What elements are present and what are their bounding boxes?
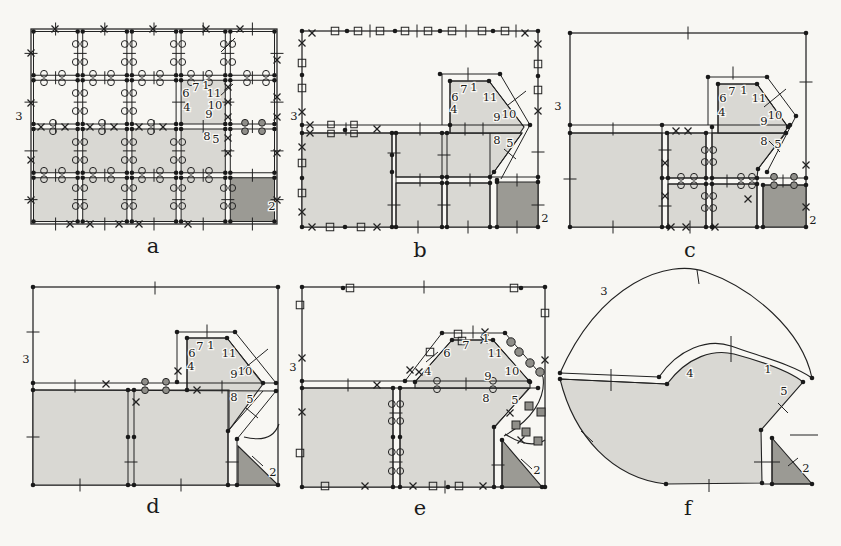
panel-caption-d: d [146,494,159,518]
cell-label: 6 [182,86,189,100]
panel-b: 3671114910852 [290,25,548,234]
cell-label: 9 [484,369,491,383]
cell-label: 9 [205,107,212,121]
cell-label: 5 [246,392,253,406]
cell-label: 2 [268,199,275,213]
cell-label: 2 [533,463,540,477]
figure-svg: 3671114109852367111491085236711149108523… [0,0,841,546]
cell-label: 4 [718,105,725,119]
cell-label: 10 [768,108,783,122]
cell-label: 8 [230,390,237,404]
cell-label: 10 [502,107,517,121]
cell-label: 8 [203,129,210,143]
cell-label: 3 [289,360,296,374]
cell-label: 6 [719,91,726,105]
cell-label: 11 [488,346,503,360]
cell-label: 11 [483,90,498,104]
cell-label: 6 [188,346,195,360]
panel-caption-c: c [684,238,696,262]
cell-label: 2 [541,211,548,225]
cell-label: 5 [212,132,219,146]
cell-label: 7 [196,339,203,353]
cell-label: 2 [802,461,809,475]
cell-label: 11 [752,91,767,105]
cell-label: 7 [728,84,735,98]
cell-label: 7 [192,80,199,94]
cell-label: 10 [238,364,253,378]
cell-label: 4 [424,364,431,378]
cell-label: 9 [760,114,767,128]
panel-caption-a: a [147,234,160,258]
cell-label: 8 [493,133,500,147]
cell-label: 2 [269,465,276,479]
cell-label: 9 [230,367,237,381]
panel-f: 34152 [558,268,818,492]
cell-label: 1 [482,331,489,345]
cell-label: 9 [493,110,500,124]
cell-label: 8 [760,134,767,148]
panel-d: 3671114910852 [22,282,280,492]
cell-label: 3 [290,109,297,123]
panel-a: 3671114109852 [15,23,283,231]
cell-label: 4 [686,366,693,380]
cell-label: 3 [554,99,561,113]
figure: 3671114109852367111491085236711149108523… [0,0,841,546]
cell-label: 8 [482,391,489,405]
panel-e: 3671114910852 [289,281,548,494]
cell-label: 3 [22,352,29,366]
cell-label: 6 [443,346,450,360]
panel-caption-b: b [413,238,426,262]
cell-label: 5 [774,137,781,151]
cell-label: 5 [511,393,518,407]
cell-label: 3 [600,284,607,298]
cell-label: 1 [207,338,214,352]
cell-label: 1 [470,80,477,94]
cell-label: 4 [187,359,194,373]
cell-label: 7 [460,82,467,96]
cell-label: 4 [450,102,457,116]
panel-c: 3671114910852 [554,27,816,234]
panel-caption-f: f [684,496,692,520]
cell-label: 3 [15,109,22,123]
cell-label: 5 [780,384,787,398]
cell-label: 11 [222,346,237,360]
cell-label: 7 [462,338,469,352]
cell-label: 1 [740,83,747,97]
cell-label: 1 [764,362,771,376]
cell-label: 4 [183,100,190,114]
cell-label: 2 [809,213,816,227]
cell-label: 5 [506,136,513,150]
panel-caption-e: e [414,496,426,520]
cell-label: 10 [505,364,520,378]
